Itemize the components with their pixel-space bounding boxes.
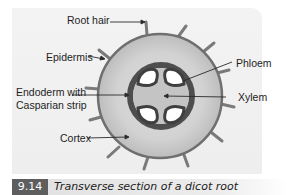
label-xylem: Xylem	[238, 91, 267, 103]
label-endoderm-line2: Casparian strip	[16, 99, 87, 111]
figure-caption: 9.14 Transverse section of a dicot root	[12, 179, 288, 195]
figure-title: Transverse section of a dicot root	[48, 179, 238, 195]
figure-number: 9.14	[12, 179, 48, 195]
label-epidermis: Epidermis	[46, 51, 93, 63]
label-root-hair: Root hair	[67, 14, 110, 26]
label-phloem: Phloem	[236, 57, 272, 69]
label-endoderm-line1: Endoderm with	[16, 86, 86, 98]
label-cortex: Cortex	[60, 132, 91, 144]
